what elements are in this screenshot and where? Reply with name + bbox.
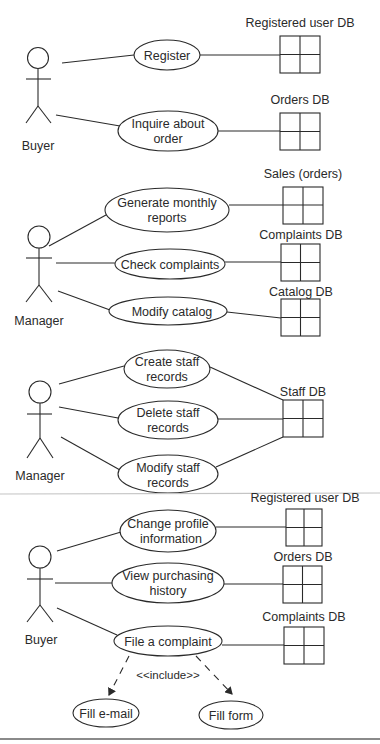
table-icon <box>283 187 323 224</box>
actor-manager-1: Manager <box>14 226 63 328</box>
association-line <box>49 215 106 246</box>
actor-buyer-2: Buyer <box>25 546 58 647</box>
actor-label: Manager <box>15 469 64 483</box>
association-line <box>62 55 134 63</box>
actor-buyer-1: Buyer <box>22 48 55 154</box>
use-case-register[interactable]: Register <box>134 40 200 70</box>
use-case-label: View purchasing <box>122 569 214 583</box>
use-case-modify-staff-records[interactable]: Modify staff records <box>118 455 218 493</box>
use-case-fill-form[interactable]: Fill form <box>199 701 263 729</box>
use-case-label: information <box>140 532 202 546</box>
table-icon <box>280 36 320 73</box>
association-line <box>57 608 117 635</box>
include-arrow <box>109 656 129 695</box>
use-case-label: records <box>147 476 189 490</box>
use-case-inquire-about-order[interactable]: Inquire about order <box>118 111 218 151</box>
use-case-label: Check complaints <box>121 258 220 272</box>
table-icon <box>284 627 324 664</box>
database-label: Registered user DB <box>245 16 354 30</box>
table-icon <box>286 509 322 546</box>
use-case-view-purchasing-history[interactable]: View purchasing history <box>112 563 224 603</box>
use-case-label: Fill form <box>209 709 253 723</box>
association-line <box>57 532 121 551</box>
stick-figure-icon <box>26 48 51 124</box>
database-registered-user: Registered user DB <box>245 16 354 73</box>
database-label: Staff DB <box>280 385 326 399</box>
database-label: Orders DB <box>273 550 332 564</box>
actor-label: Buyer <box>22 139 55 153</box>
use-case-file-a-complaint[interactable]: File a complaint <box>114 626 222 656</box>
table-icon <box>283 400 323 437</box>
actor-manager-2: Manager <box>15 381 64 483</box>
actor-label: Buyer <box>25 633 58 647</box>
use-case-label: Delete staff <box>136 406 200 420</box>
use-case-fill-e-mail[interactable]: Fill e-mail <box>73 699 139 727</box>
use-case-label: records <box>147 421 189 435</box>
database-complaints: Complaints DB <box>259 228 342 281</box>
use-case-label: Modify staff <box>136 461 200 475</box>
actor-label: Manager <box>14 314 63 328</box>
stick-figure-icon <box>26 226 52 302</box>
association-line <box>216 437 283 467</box>
association-line <box>58 291 110 310</box>
use-case-label: Change profile <box>127 517 208 531</box>
use-case-label: File a complaint <box>124 635 212 649</box>
section-manager-2: Manager Create staff records Delete staf… <box>15 350 326 493</box>
use-case-label: Create staff <box>135 355 200 369</box>
database-registered-user-2: Registered user DB <box>250 491 359 546</box>
database-complaints-2: Complaints DB <box>262 610 345 664</box>
database-label: Complaints DB <box>259 228 342 242</box>
use-case-label: history <box>150 584 188 598</box>
section-buyer-1: Buyer Register Inquire about order Regis… <box>22 16 355 153</box>
association-line <box>210 367 283 400</box>
database-orders: Orders DB <box>270 93 329 150</box>
table-icon <box>281 244 320 281</box>
association-line <box>59 366 124 384</box>
use-case-label: Fill e-mail <box>79 707 132 721</box>
association-line <box>59 407 118 418</box>
database-label: Orders DB <box>270 93 329 107</box>
use-case-label: Inquire about <box>132 117 206 131</box>
database-label: Complaints DB <box>262 610 345 624</box>
association-line <box>61 437 120 470</box>
use-case-generate-monthly-reports[interactable]: Generate monthly reports <box>105 188 229 232</box>
use-case-delete-staff-records[interactable]: Delete staff records <box>118 401 218 439</box>
use-case-label: records <box>146 370 188 384</box>
use-case-change-profile-information[interactable]: Change profile information <box>120 510 216 552</box>
table-icon <box>283 566 322 603</box>
use-case-label: Generate monthly <box>117 196 217 210</box>
use-case-label: Register <box>144 49 191 63</box>
table-icon <box>280 113 320 150</box>
use-case-label: Modify catalog <box>132 305 213 319</box>
database-orders-2: Orders DB <box>273 550 332 603</box>
association-line <box>56 115 120 126</box>
association-line <box>227 312 281 318</box>
use-case-modify-catalog[interactable]: Modify catalog <box>109 297 227 325</box>
database-label: Sales (orders) <box>264 167 343 181</box>
include-stereotype-label: <<include>> <box>136 669 200 681</box>
section-manager-1: Manager Generate monthly reports Check c… <box>14 167 342 336</box>
use-case-check-complaints[interactable]: Check complaints <box>115 249 225 279</box>
use-case-label: reports <box>148 211 187 225</box>
use-case-create-staff-records[interactable]: Create staff records <box>124 350 210 388</box>
database-staff: Staff DB <box>280 385 326 437</box>
table-icon <box>281 299 320 336</box>
database-label: Registered user DB <box>250 491 359 505</box>
use-case-diagram: Buyer Register Inquire about order Regis… <box>0 0 380 744</box>
database-sales-orders: Sales (orders) <box>264 167 343 224</box>
stick-figure-icon <box>27 546 53 622</box>
database-label: Catalog DB <box>269 285 333 299</box>
use-case-label: order <box>153 132 182 146</box>
include-arrow <box>196 656 232 694</box>
stick-figure-icon <box>27 381 53 458</box>
section-buyer-2: Buyer Change profile information View pu… <box>25 491 360 729</box>
database-catalog: Catalog DB <box>269 285 333 336</box>
